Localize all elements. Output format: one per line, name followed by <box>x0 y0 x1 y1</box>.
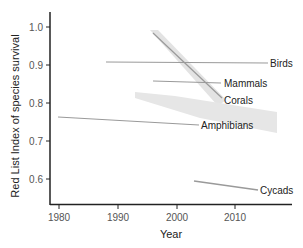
birds-label: Birds <box>270 58 293 69</box>
y-tick-label: 0.6 <box>29 174 43 185</box>
mammals-line <box>153 81 221 83</box>
y-tick-label: 0.7 <box>29 136 43 147</box>
birds-line <box>106 62 268 63</box>
cycads-line <box>194 181 258 190</box>
x-tick-label: 1990 <box>107 212 130 223</box>
y-tick-label: 1.0 <box>29 22 43 33</box>
y-axis-title: Red List Index of species survival <box>9 34 21 197</box>
amphibians-line <box>58 117 199 125</box>
x-tick-label: 2010 <box>224 212 247 223</box>
y-tick-label: 0.8 <box>29 98 43 109</box>
corals-label: Corals <box>224 95 253 106</box>
cycads-label: Cycads <box>260 185 293 196</box>
x-tick-label: 1980 <box>48 212 71 223</box>
mammals-label: Mammals <box>224 78 267 89</box>
x-tick-label: 2000 <box>166 212 189 223</box>
corals-line <box>153 33 222 98</box>
red-list-index-chart: Birds Mammals Corals Amphibians Cycads 1… <box>0 0 303 248</box>
y-tick-label: 0.9 <box>29 60 43 71</box>
x-axis-title: Year <box>160 228 183 240</box>
amphibians-label: Amphibians <box>201 120 253 131</box>
